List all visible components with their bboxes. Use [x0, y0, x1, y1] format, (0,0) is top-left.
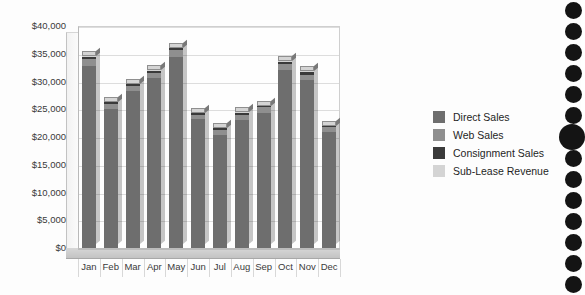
stacked-bar[interactable] — [104, 101, 118, 248]
bar-segment[interactable] — [147, 73, 161, 79]
stacked-bar[interactable] — [235, 111, 249, 248]
bar-segment[interactable] — [322, 127, 336, 132]
bar-segment[interactable] — [126, 84, 140, 86]
bar-segment[interactable] — [213, 128, 227, 130]
bar-segment[interactable] — [257, 113, 271, 248]
bar-top-cap — [235, 107, 249, 112]
bar-top-cap — [126, 79, 140, 84]
bar-segment[interactable] — [235, 113, 249, 115]
chart-floor-edge — [78, 248, 340, 250]
legend-item[interactable]: Web Sales — [433, 126, 563, 144]
chart-figure: $40,000$35,000$30,000$25,000$20,000$15,0… — [0, 0, 420, 295]
chart-3d-side-wall — [66, 32, 78, 254]
binder-hole-icon — [565, 192, 582, 209]
bar-cap-shadow — [227, 120, 231, 128]
legend-swatch-icon — [433, 147, 445, 159]
bar-segment[interactable] — [278, 64, 292, 70]
bar-cap-shadow — [118, 94, 122, 102]
bar-cap-shadow — [205, 105, 209, 113]
bar-segment[interactable] — [300, 72, 314, 74]
bar-segment[interactable] — [147, 78, 161, 248]
binder-hole-icon — [565, 171, 582, 188]
binder-hole-icon — [565, 23, 582, 40]
y-axis-tick-label: $20,000 — [0, 132, 66, 142]
binder-hole-icon — [565, 234, 582, 251]
x-axis-labels: JanFebMarAprMayJunJulAugSepOctNovDec — [66, 262, 340, 278]
bar-segment[interactable] — [126, 91, 140, 248]
binder-hole-icon — [559, 124, 585, 150]
bar-segment[interactable] — [82, 59, 96, 66]
x-axis-tick — [231, 259, 232, 277]
y-axis-tick-label: $25,000 — [0, 105, 66, 115]
bar-segment[interactable] — [169, 57, 183, 248]
bar-segment[interactable] — [300, 80, 314, 248]
y-axis-tick-label: $0 — [0, 243, 66, 253]
stacked-bar[interactable] — [82, 55, 96, 248]
stacked-bar[interactable] — [213, 127, 227, 248]
x-axis-tick — [318, 259, 319, 277]
bar-cap-shadow — [336, 118, 340, 126]
stacked-bar[interactable] — [278, 60, 292, 248]
x-axis-tick — [340, 259, 341, 277]
bar-segment[interactable] — [169, 48, 183, 50]
bar-top-cap — [300, 66, 314, 71]
x-axis-tick — [122, 259, 123, 277]
x-axis-tick-label: Dec — [316, 262, 342, 272]
bar-segment[interactable] — [322, 132, 336, 248]
bar-segment[interactable] — [147, 71, 161, 73]
legend-item[interactable]: Direct Sales — [433, 108, 563, 126]
stacked-bar[interactable] — [322, 125, 336, 248]
binder-punch-holes — [555, 0, 581, 295]
bar-cap-shadow — [96, 48, 100, 56]
stacked-bar[interactable] — [126, 83, 140, 248]
bar-segment[interactable] — [169, 50, 183, 57]
binder-hole-icon — [565, 2, 582, 19]
bar-cap-shadow — [140, 75, 144, 83]
stacked-bar[interactable] — [300, 70, 314, 248]
stacked-bar[interactable] — [257, 105, 271, 248]
bar-cap-shadow — [249, 104, 253, 112]
stacked-bar[interactable] — [191, 112, 205, 248]
bar-segment[interactable] — [104, 104, 118, 109]
stacked-bar[interactable] — [147, 69, 161, 248]
bar-segment[interactable] — [257, 106, 271, 107]
binder-hole-icon — [565, 150, 582, 167]
bar-top-cap — [322, 121, 336, 126]
legend-swatch-icon — [433, 129, 445, 141]
x-axis-tick — [275, 259, 276, 277]
bar-segment[interactable] — [82, 66, 96, 248]
y-axis-tick-label: $30,000 — [0, 77, 66, 87]
legend-item[interactable]: Sub-Lease Revenue — [433, 162, 563, 180]
bar-segment[interactable] — [322, 126, 336, 127]
x-axis-tick — [253, 259, 254, 277]
bar-segment[interactable] — [213, 130, 227, 135]
bar-segment[interactable] — [300, 75, 314, 81]
bar-segment[interactable] — [278, 62, 292, 64]
bar-segment[interactable] — [278, 70, 292, 248]
bar-segment[interactable] — [191, 119, 205, 248]
bar-segment[interactable] — [191, 115, 205, 119]
legend-item[interactable]: Consignment Sales — [433, 144, 563, 162]
stacked-bar[interactable] — [169, 47, 183, 248]
x-axis-tick — [165, 259, 166, 277]
legend-swatch-icon — [433, 165, 445, 177]
bar-segment[interactable] — [235, 120, 249, 248]
bar-segment[interactable] — [235, 115, 249, 120]
y-axis-tick-label: $35,000 — [0, 49, 66, 59]
chart-bars — [78, 26, 340, 248]
legend-swatch-icon — [433, 111, 445, 123]
bar-cap-shadow — [271, 98, 275, 106]
bar-segment[interactable] — [82, 57, 96, 60]
bar-segment[interactable] — [257, 107, 271, 112]
bar-segment[interactable] — [126, 86, 140, 91]
bar-segment[interactable] — [104, 109, 118, 248]
bar-segment[interactable] — [191, 113, 205, 115]
bar-cap-shadow — [292, 53, 296, 61]
y-axis-tick-label: $15,000 — [0, 160, 66, 170]
bar-segment[interactable] — [104, 102, 118, 104]
bar-segment[interactable] — [213, 135, 227, 248]
x-axis-tick — [100, 259, 101, 277]
bar-top-cap — [213, 123, 227, 128]
binder-hole-icon — [565, 86, 582, 103]
